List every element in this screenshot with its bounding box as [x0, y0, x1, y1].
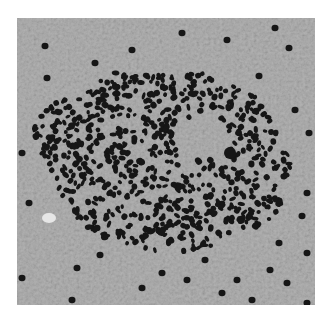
histology-micrograph [17, 18, 315, 305]
micrograph-image [17, 18, 315, 305]
